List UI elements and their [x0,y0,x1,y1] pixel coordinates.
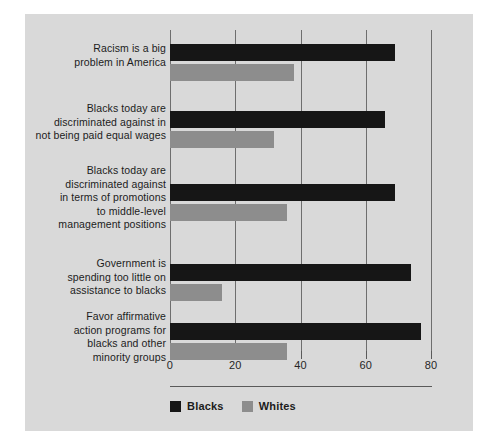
bar-whites[interactable] [170,343,287,360]
legend-swatch-whites [242,401,253,412]
x-tick-label-60: 60 [351,359,381,371]
category-label: Government isspending too little onassis… [34,257,166,298]
category-label-line: spending too little on [34,271,166,285]
category-label-line: Blacks today are [34,164,166,178]
category-label-line: discriminated against in [34,116,166,130]
legend-item-blacks[interactable]: Blacks [170,400,224,412]
category-label-line: discriminated against [34,178,166,192]
category-label: Blacks today arediscriminated againstin … [34,164,166,232]
category-label-line: in terms of promotions [34,191,166,205]
legend-divider [170,386,432,387]
category-label: Racism is a bigproblem in America [34,42,166,69]
bar-whites[interactable] [170,204,287,221]
chart-page: 020406080 Racism is a bigproblem in Amer… [0,0,490,445]
category-label-line: blacks and other [34,337,166,351]
category-label-line: problem in America [34,56,166,70]
x-tick-40 [301,351,302,359]
category-label-line: to middle-level [34,205,166,219]
legend-label-blacks: Blacks [187,400,224,412]
chart-panel: 020406080 Racism is a bigproblem in Amer… [25,14,473,431]
category-label-line: Blacks today are [34,102,166,116]
category-label-line: minority groups [34,351,166,365]
x-tick-60 [366,351,367,359]
legend-label-whites: Whites [259,400,296,412]
chart-legend: Blacks Whites [170,400,296,412]
category-label-line: not being paid equal wages [34,129,166,143]
category-label-line: assistance to blacks [34,284,166,298]
x-tick-label-40: 40 [286,359,316,371]
legend-item-whites[interactable]: Whites [242,400,296,412]
bar-blacks[interactable] [170,111,385,128]
gridline-80 [431,30,432,359]
x-tick-80 [431,351,432,359]
x-tick-label-80: 80 [416,359,446,371]
bar-blacks[interactable] [170,44,395,61]
x-tick-label-20: 20 [220,359,250,371]
bar-blacks[interactable] [170,184,395,201]
bar-whites[interactable] [170,284,222,301]
category-label-line: action programs for [34,324,166,338]
legend-swatch-blacks [170,401,181,412]
category-label-line: Racism is a big [34,42,166,56]
category-label-line: Favor affirmative [34,310,166,324]
category-label: Blacks today arediscriminated against in… [34,102,166,143]
category-label: Favor affirmativeaction programs forblac… [34,310,166,364]
bar-whites[interactable] [170,64,294,81]
bar-whites[interactable] [170,131,274,148]
category-label-line: management positions [34,218,166,232]
plot-area: 020406080 Racism is a bigproblem in Amer… [25,14,473,431]
bar-blacks[interactable] [170,264,411,281]
category-label-line: Government is [34,257,166,271]
bar-blacks[interactable] [170,323,421,340]
